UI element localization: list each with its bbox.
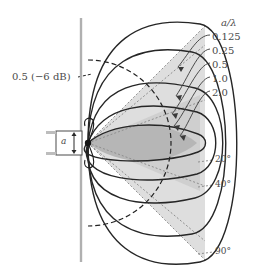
aperture-box <box>56 131 82 155</box>
legend-item-2: 0.5 <box>212 59 228 70</box>
aperture-label: a <box>61 136 66 146</box>
angle-label-90: 90° <box>215 246 231 256</box>
legend-item-1: 0.25 <box>212 45 234 56</box>
aperture-stub-bottom <box>46 152 56 155</box>
angle-label-20: 20° <box>215 154 231 164</box>
legend-item-4: 2.0 <box>212 87 228 98</box>
source-point <box>85 140 91 146</box>
aperture-stub-top <box>46 131 56 134</box>
legend-item-0: 0.125 <box>212 31 241 42</box>
minus-6db-label: 0.5 (−6 dB) <box>12 71 71 82</box>
legend-title: a/λ <box>221 17 237 28</box>
legend-item-3: 1.0 <box>212 73 228 84</box>
angle-label-40: 40° <box>215 179 231 189</box>
